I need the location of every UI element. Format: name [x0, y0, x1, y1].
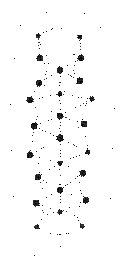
network-graph-figure: [0, 0, 123, 271]
network-graph-canvas: [0, 0, 123, 271]
